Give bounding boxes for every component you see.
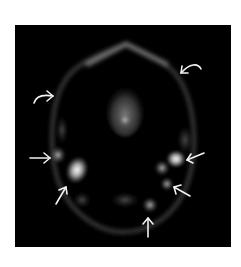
- central-uptake: [106, 83, 144, 137]
- scan-figure: [0, 0, 241, 267]
